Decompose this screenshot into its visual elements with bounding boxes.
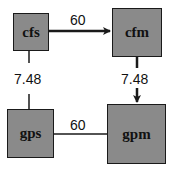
edge-label-gps-gpm: 60 [70, 118, 86, 132]
node-gps-label: gps [20, 125, 42, 142]
node-cfs-label: cfs [22, 24, 40, 41]
node-gps: gps [7, 109, 54, 158]
node-cfs: cfs [13, 13, 49, 51]
edge-label-cfs-cfm: 60 [70, 13, 86, 27]
edge-label-cfs-gps: 7.48 [14, 72, 41, 86]
node-cfm-label: cfm [125, 24, 149, 41]
node-cfm: cfm [112, 8, 162, 57]
edge-label-cfm-gpm: 7.48 [121, 72, 148, 86]
node-gpm: gpm [107, 104, 166, 164]
node-gpm-label: gpm [122, 126, 150, 143]
